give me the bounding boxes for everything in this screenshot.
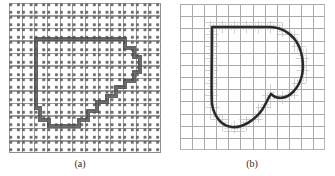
panel-b <box>180 4 325 150</box>
panel-a-caption: (a) <box>60 158 100 169</box>
panel-b-caption: (b) <box>232 158 272 169</box>
panel-b-mesh-layer <box>180 4 325 150</box>
figure-container: (a) (b) <box>0 0 335 176</box>
panel-a-interface-layer <box>9 3 161 153</box>
panel-a <box>9 3 161 153</box>
